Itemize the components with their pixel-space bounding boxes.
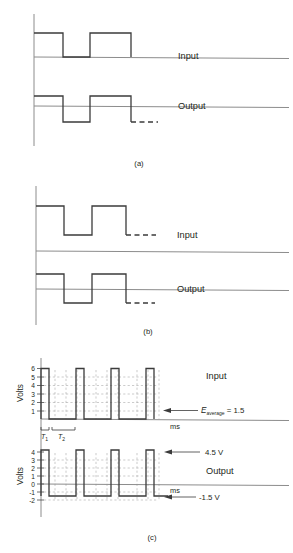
- panel-c-t2-label: T2: [58, 433, 65, 442]
- panel-c-minus-1p5-text: -1.5 V: [199, 493, 221, 502]
- panel-c-output-y-axis-title: Volts: [16, 467, 25, 485]
- panel-b-input-waveform: [36, 206, 126, 235]
- panel-c-output-tick-0: 0: [31, 481, 35, 488]
- panel-b-caption: (b): [143, 327, 153, 336]
- panel-b-input-baseline: [36, 251, 289, 253]
- panel-a-input-label: Input: [178, 51, 199, 61]
- panel-c-t2-brace: [52, 427, 75, 430]
- panel-b-input-trace: Input: [36, 206, 289, 253]
- panel-c-output-tick-4: 4: [31, 449, 35, 456]
- panel-c-t1-brace: [41, 427, 49, 430]
- t1-sub: 1: [45, 436, 48, 442]
- panel-b-output-trace: Output: [36, 274, 289, 303]
- panel-a-output-waveform: [34, 96, 131, 122]
- panel-a-output-trace: Output: [34, 96, 289, 122]
- waveform-figure: Input Output (a) Input Output (b): [0, 0, 293, 553]
- panel-c-t1-label: T1: [41, 433, 48, 442]
- panel-c-e-average-annotation: Eaverage = 1.5: [163, 406, 245, 416]
- panel-c-input-tick-1: 1: [31, 408, 35, 415]
- panel-c-period-braces: T1 T2: [41, 427, 75, 442]
- panel-c-input-tick-5: 5: [31, 374, 35, 381]
- panel-c-output-tick-neg2: -2: [29, 497, 35, 504]
- panel-a: Input Output (a): [34, 14, 289, 168]
- panel-c-input-baseline: [41, 419, 289, 421]
- panel-c-output-label: Output: [206, 466, 234, 476]
- panel-a-caption: (a): [134, 159, 144, 168]
- t2-sub: 2: [62, 436, 65, 442]
- panel-c-output-tick-neg1: -1: [29, 489, 35, 496]
- panel-c-e-average-text: Eaverage = 1.5: [201, 406, 245, 416]
- panel-a-input-waveform: [34, 33, 131, 57]
- panel-c-input-vertical-gridlines: [55, 370, 159, 419]
- panel-c-plus-4p5-text: 4.5 V: [205, 448, 224, 457]
- panel-c-input-gridlines: [44, 377, 158, 411]
- panel-c-input-y-axis-title: Volts: [16, 384, 25, 402]
- panel-c-input-tick-4: 4: [31, 382, 35, 389]
- panel-c-input-plot: 6 5 4 3 2 1 Volts ms Eaverage = 1.5: [16, 365, 289, 442]
- panel-c-output-baseline: [41, 484, 289, 486]
- panel-c-plus-4p5-arrowhead: [164, 450, 172, 455]
- panel-c-input-tick-2: 2: [31, 399, 35, 406]
- panel-a-output-baseline: [34, 106, 289, 108]
- panel-c-output-plot: 4 3 2 1 0 -1 -2 Volts ms 4.5 V -: [16, 448, 289, 504]
- panel-b-output-label: Output: [177, 284, 205, 294]
- panel-c-output-tick-1: 1: [31, 473, 35, 480]
- e-average-subscript: average: [206, 410, 224, 416]
- panel-c-input-label: Input: [206, 371, 227, 381]
- panel-c-minus-1p5-arrowhead: [164, 495, 172, 500]
- panel-c-input-tick-6: 6: [31, 365, 35, 372]
- panel-c-output-tick-2: 2: [31, 465, 35, 472]
- panel-b-input-label: Input: [177, 230, 198, 240]
- panel-c-caption: (c): [148, 533, 157, 542]
- panel-c: 6 5 4 3 2 1 Volts ms Eaverage = 1.5: [16, 358, 289, 542]
- panel-c-input-tick-3: 3: [31, 391, 35, 398]
- panel-a-output-label: Output: [178, 101, 206, 111]
- panel-c-output-x-axis-label: ms: [170, 486, 180, 495]
- panel-c-input-x-axis-label: ms: [170, 422, 180, 431]
- figure-root: Input Output (a) Input Output (b): [0, 0, 293, 553]
- e-average-value: = 1.5: [225, 406, 245, 415]
- panel-c-e-average-arrowhead: [163, 408, 171, 413]
- panel-b-output-baseline: [36, 289, 289, 291]
- panel-a-input-trace: Input: [34, 33, 289, 61]
- panel-c-output-waveform: [41, 450, 168, 496]
- panel-c-output-tick-3: 3: [31, 457, 35, 464]
- panel-c-output-gridlines: [44, 460, 158, 500]
- panel-b-output-waveform: [36, 274, 126, 303]
- panel-b: Input Output (b): [36, 186, 289, 336]
- panel-c-plus-4p5-annotation: 4.5 V: [164, 448, 224, 457]
